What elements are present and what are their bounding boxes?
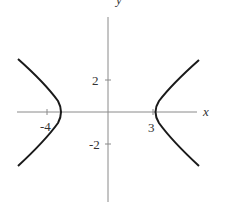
y-tick-label-neg2: -2 (89, 137, 100, 152)
hyperbola-right-branch (156, 60, 200, 166)
x-axis-label: x (202, 104, 209, 119)
x-tick-label-neg4: -4 (40, 119, 51, 134)
y-tick-label-2: 2 (92, 73, 99, 88)
hyperbola-chart: y x -4 3 2 -2 (0, 0, 229, 202)
y-axis-label: y (114, 0, 122, 7)
x-tick-label-3: 3 (148, 120, 155, 135)
